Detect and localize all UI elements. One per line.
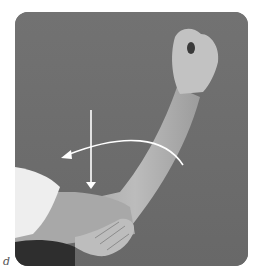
dark-lower-area (15, 240, 75, 266)
panel-label: d (3, 255, 10, 268)
arm-photo (15, 12, 248, 266)
fist-shadow (187, 42, 195, 54)
photo-illustration (15, 12, 248, 266)
